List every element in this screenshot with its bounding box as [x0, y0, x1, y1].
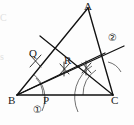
geometry-diagram: A B C Q R P ① ② C s — [0, 0, 134, 125]
annotation-circled-one: ① — [33, 105, 42, 115]
vertex-label-c: C — [111, 95, 118, 106]
edge-artifact-c: C — [0, 13, 7, 23]
point-label-q: Q — [29, 48, 37, 59]
vertex-label-a: A — [84, 1, 92, 12]
point-label-p: P — [43, 95, 49, 106]
arc-right-of-ac — [108, 62, 121, 72]
arc-from-c-inner — [83, 70, 96, 95]
annotation-circled-two: ② — [108, 33, 117, 43]
vertex-label-b: B — [8, 95, 15, 106]
point-label-r: R — [64, 55, 71, 66]
edge-artifact-s: s — [0, 52, 4, 62]
segment-ac — [88, 8, 113, 95]
segment-ab — [17, 8, 88, 95]
